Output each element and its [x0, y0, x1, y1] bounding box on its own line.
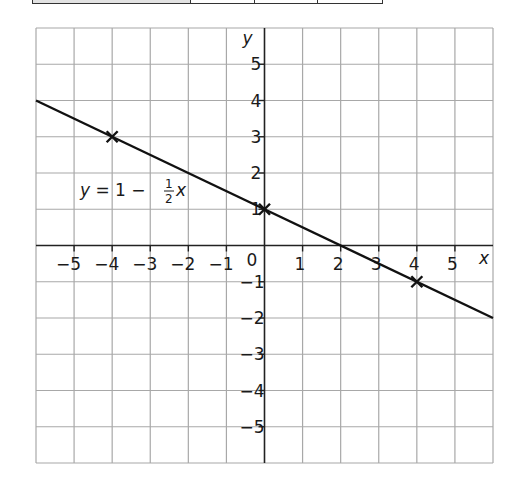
y-tick-label: −4	[240, 381, 265, 401]
y-axis-label: y	[242, 28, 254, 48]
equation-middle: = 1 −	[90, 180, 146, 200]
equation-label: y = 1 − 1 2 x	[79, 177, 187, 206]
y-tick-label: −1	[240, 272, 265, 292]
y-tick-label: 3	[251, 127, 262, 147]
x-tick-label: 5	[447, 254, 458, 274]
x-tick-label: −1	[208, 254, 233, 274]
y-tick-label: −3	[240, 344, 265, 364]
svg-text:y = 1 −: y = 1 −	[79, 180, 146, 200]
x-tick-label: 2	[333, 254, 344, 274]
x-tick-label: 0	[247, 250, 258, 270]
equation-x: x	[175, 180, 187, 200]
x-tick-label: −2	[170, 254, 195, 274]
coordinate-plane: −5−4−3−2−1012345−5−4−3−2−112345 x y y = …	[0, 0, 521, 482]
x-tick-label: −3	[132, 254, 157, 274]
equation-fraction-numerator: 1	[165, 177, 173, 191]
x-tick-label: 1	[295, 254, 306, 274]
x-tick-label: 4	[409, 254, 420, 274]
y-tick-label: 5	[251, 54, 262, 74]
x-tick-label: −5	[56, 254, 81, 274]
x-tick-label: −4	[94, 254, 119, 274]
y-tick-label: −2	[240, 308, 265, 328]
y-tick-label: −5	[240, 417, 265, 437]
x-axis-label: x	[478, 248, 490, 268]
y-tick-label: 4	[251, 91, 262, 111]
y-tick-label: 2	[251, 163, 262, 183]
equation-fraction-denominator: 2	[165, 192, 173, 206]
